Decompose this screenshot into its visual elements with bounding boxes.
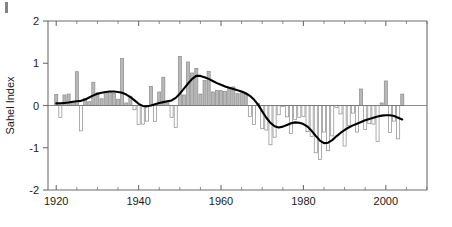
bar-1926 — [79, 106, 82, 131]
bar-series — [55, 56, 404, 159]
bar-1987 — [331, 106, 334, 136]
bar-1985 — [322, 106, 325, 133]
x-tick-label-1980: 1980 — [291, 195, 315, 207]
bar-1958 — [211, 92, 214, 106]
x-tick-label-1940: 1940 — [126, 195, 150, 207]
bar-1993 — [355, 106, 358, 133]
y-tick-label-0: 0 — [33, 100, 39, 112]
bar-1932 — [104, 92, 107, 106]
bar-1935 — [117, 99, 120, 105]
bar-1928 — [88, 102, 91, 106]
x-tick-label-2000: 2000 — [374, 195, 398, 207]
bar-1998 — [376, 106, 379, 142]
bar-1973 — [273, 106, 276, 138]
bar-1992 — [351, 106, 354, 114]
bar-1940 — [137, 106, 140, 125]
bar-1949 — [174, 106, 177, 128]
bar-1967 — [248, 106, 251, 117]
bar-1959 — [215, 90, 218, 105]
bar-1979 — [298, 106, 301, 118]
bar-1923 — [67, 94, 70, 105]
bar-2001 — [388, 106, 391, 133]
bar-1921 — [59, 106, 62, 118]
bar-1991 — [347, 106, 350, 126]
y-tick-label-2: 2 — [33, 15, 39, 27]
bar-1950 — [178, 56, 181, 105]
bar-1989 — [339, 106, 342, 114]
y-tick-label--2: -2 — [29, 184, 39, 196]
bar-1948 — [170, 106, 173, 118]
bar-1965 — [240, 93, 243, 106]
bar-1936 — [121, 59, 124, 106]
bar-1994 — [360, 89, 363, 105]
bar-1961 — [224, 92, 227, 106]
bar-1977 — [290, 106, 293, 134]
bar-1943 — [149, 86, 152, 105]
bar-2004 — [401, 94, 404, 105]
bar-2003 — [397, 106, 400, 139]
sahel-index-chart: 19201940196019802000-2-1012Sahel Index — [0, 0, 452, 227]
bar-2002 — [393, 106, 396, 122]
y-tick-label-1: 1 — [33, 57, 39, 69]
bar-1964 — [236, 94, 239, 106]
bar-1968 — [252, 106, 255, 125]
bar-1997 — [372, 106, 375, 125]
y-axis-title: Sahel Index — [4, 76, 16, 135]
bar-1960 — [220, 91, 223, 106]
bar-1995 — [364, 106, 367, 130]
bar-1983 — [314, 106, 317, 153]
bar-1941 — [141, 106, 144, 125]
bar-1962 — [228, 88, 231, 105]
bar-1931 — [100, 99, 103, 106]
bar-1990 — [343, 106, 346, 147]
bar-1986 — [327, 106, 330, 151]
y-tick-label--1: -1 — [29, 142, 39, 154]
bar-1966 — [244, 95, 247, 106]
bar-1951 — [182, 95, 185, 106]
bar-1980 — [302, 106, 305, 117]
bar-1934 — [112, 93, 115, 105]
bar-1939 — [133, 106, 136, 110]
bar-2000 — [384, 81, 387, 106]
figure-container: 19201940196019802000-2-1012Sahel Index — [0, 0, 452, 227]
bar-1955 — [199, 94, 202, 105]
bar-1996 — [368, 106, 371, 124]
page-edge-artifact — [5, 2, 8, 13]
bar-1957 — [207, 71, 210, 105]
bar-1972 — [269, 106, 272, 145]
bar-1976 — [285, 106, 288, 117]
x-tick-label-1960: 1960 — [209, 195, 233, 207]
bar-1978 — [294, 106, 297, 120]
bar-1954 — [195, 68, 198, 105]
bar-1942 — [145, 106, 148, 122]
y-axis-ticks: -2-1012 — [29, 15, 48, 196]
bar-1956 — [203, 81, 206, 106]
bar-1944 — [154, 106, 157, 122]
bar-1933 — [108, 92, 111, 106]
x-tick-label-1920: 1920 — [44, 195, 68, 207]
bar-1984 — [318, 106, 321, 160]
bar-1974 — [277, 106, 280, 115]
